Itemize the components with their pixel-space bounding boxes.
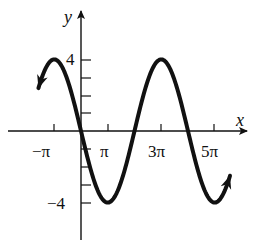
x-axis-label: x	[236, 111, 244, 129]
x-tick-label-neg-pi: −π	[32, 143, 50, 160]
y-tick-label-neg4: −4	[47, 195, 65, 212]
y-axis-label: y	[64, 8, 72, 26]
x-tick-label-pi: π	[100, 143, 109, 160]
x-tick-label-5pi: 5π	[201, 143, 218, 160]
x-tick-label-3pi: 3π	[148, 143, 165, 160]
y-tick-label-4: 4	[66, 51, 75, 68]
graph-canvas	[0, 0, 260, 242]
